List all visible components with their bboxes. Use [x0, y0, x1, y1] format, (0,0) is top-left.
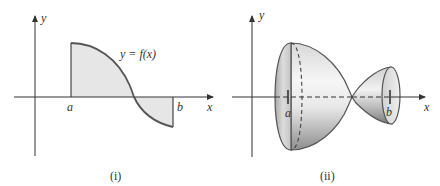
bound-a-label: a: [285, 106, 291, 120]
shaded-region-negative: [134, 97, 173, 127]
caption-i: (i): [110, 169, 121, 183]
y-axis-label: y: [40, 11, 47, 25]
bound-a-label: a: [67, 100, 73, 114]
caption-ii: (ii): [320, 169, 335, 183]
curve-label: y = f(x): [119, 47, 156, 61]
x-axis-label: x: [423, 100, 430, 114]
y-axis-label: y: [258, 8, 265, 22]
figure-i: y x a b y = f(x) (i): [14, 11, 213, 183]
figure-ii: y x a b (ii): [232, 8, 430, 183]
bound-b-label: b: [177, 100, 183, 114]
bound-b-label: b: [386, 105, 392, 119]
figure-canvas: y x a b y = f(x) (i) y x a b (ii): [0, 0, 440, 186]
x-axis-label: x: [206, 100, 213, 114]
